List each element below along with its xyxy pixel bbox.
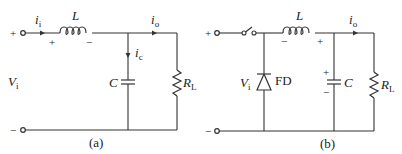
inductor-plus-a: + (49, 36, 55, 48)
capacitor-plus-b: + (323, 66, 329, 78)
arrow-icon (152, 31, 157, 36)
figure-caption-a: (a) (89, 135, 103, 150)
terminal-minus-b: − (205, 125, 211, 137)
capacitor-current-label-a: ic (135, 45, 143, 62)
output-current-label-b: io (349, 12, 358, 29)
capacitor-minus-b: − (323, 86, 329, 98)
circuit-diagrams: + − ii L + − io ic C RL Vi (0, 0, 402, 154)
inductor-icon (283, 27, 309, 35)
input-voltage-label-a: Vi (8, 74, 19, 91)
resistor-icon (370, 72, 378, 98)
input-current-label-a: ii (35, 12, 42, 29)
diode-label-b: FD (275, 73, 292, 88)
circuit-b: + − L − + io FD + (205, 8, 394, 151)
input-terminal-top-a (21, 31, 26, 36)
diode-icon (257, 74, 271, 90)
load-label-a: RL (182, 75, 196, 92)
inductor-plus-b: + (317, 35, 323, 47)
figure-caption-b: (b) (320, 136, 335, 151)
input-terminal-bottom-b (215, 129, 220, 134)
switch-icon (242, 27, 256, 35)
arrow-icon (40, 31, 45, 36)
load-label-b: RL (380, 77, 394, 94)
capacitor-label-b: C (344, 75, 353, 90)
capacitor-label-a: C (109, 75, 118, 90)
inductor-minus-b: − (281, 35, 287, 47)
circuit-a: + − ii L + − io ic C RL Vi (8, 8, 196, 150)
input-voltage-label-b: Vi (240, 75, 251, 92)
inductor-label-a: L (71, 8, 79, 23)
terminal-plus-b: + (205, 27, 211, 39)
inductor-icon (60, 27, 86, 35)
inductor-label-b: L (295, 8, 303, 23)
input-terminal-bottom-a (21, 128, 26, 133)
terminal-minus-a: − (10, 124, 16, 136)
output-current-label-a: io (151, 12, 160, 29)
arrow-icon (353, 31, 358, 36)
resistor-icon (173, 70, 181, 96)
arrow-icon (126, 53, 131, 58)
terminal-plus-a: + (10, 27, 16, 39)
inductor-minus-a: − (86, 36, 92, 48)
input-terminal-top-b (215, 31, 220, 36)
